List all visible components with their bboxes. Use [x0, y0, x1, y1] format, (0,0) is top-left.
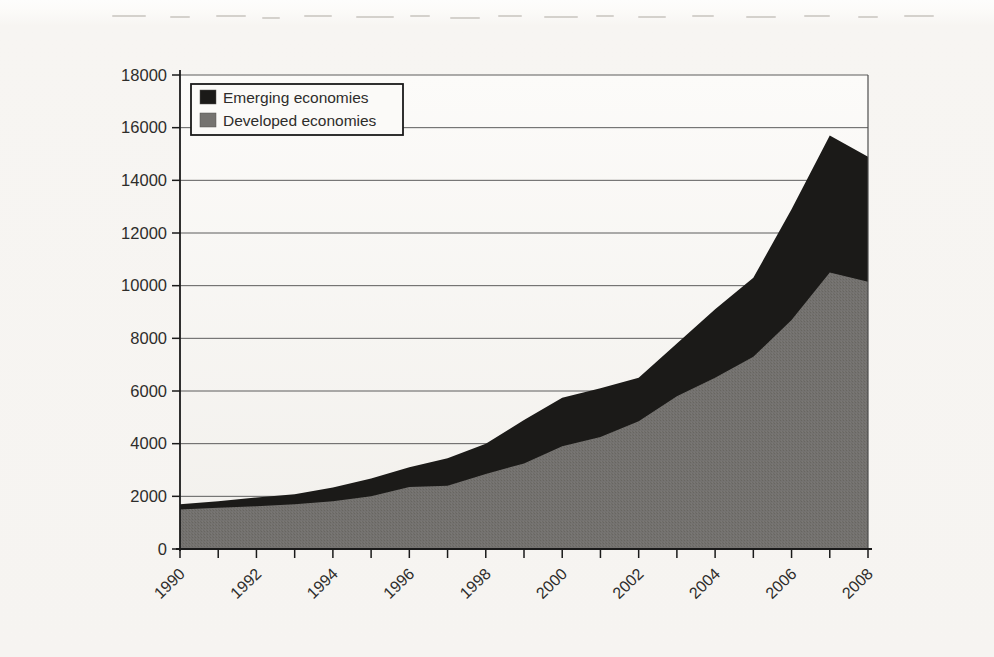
y-tick-label: 16000	[121, 118, 167, 136]
legend-swatch-developed-icon	[200, 113, 216, 127]
x-tick-label: 1990	[151, 565, 188, 602]
x-tick-label: 1996	[380, 565, 417, 602]
y-tick-label: 10000	[121, 276, 167, 294]
y-tick-label: 8000	[130, 329, 167, 347]
y-tick-label: 18000	[121, 66, 167, 84]
x-tick-label: 1992	[227, 565, 264, 602]
legend-label: Emerging economies	[223, 89, 369, 106]
stacked-area-chart: 0200040006000800010000120001400016000180…	[0, 0, 994, 657]
legend-swatch-emerging-icon	[200, 90, 216, 104]
y-axis-labels: 0200040006000800010000120001400016000180…	[121, 66, 167, 558]
y-tick-label: 6000	[130, 382, 167, 400]
y-tick-label: 12000	[121, 224, 167, 242]
x-axis-labels: 1990199219941996199820002002200420062008	[151, 565, 876, 602]
x-tick-label: 1994	[304, 565, 341, 602]
x-tick-label: 2006	[762, 565, 799, 602]
x-tick-label: 2008	[839, 565, 876, 602]
x-tick-label: 2000	[533, 565, 570, 602]
x-tick-label: 2004	[686, 565, 723, 602]
y-tick-label: 14000	[121, 171, 167, 189]
y-tick-label: 0	[158, 540, 167, 558]
scanned-page: 0200040006000800010000120001400016000180…	[0, 0, 994, 657]
y-tick-label: 2000	[130, 487, 167, 505]
legend-label: Developed economies	[223, 112, 377, 129]
y-tick-label: 4000	[130, 434, 167, 452]
x-tick-label: 2002	[609, 565, 646, 602]
x-tick-label: 1998	[456, 565, 493, 602]
legend: Emerging economiesDeveloped economies	[191, 84, 403, 135]
